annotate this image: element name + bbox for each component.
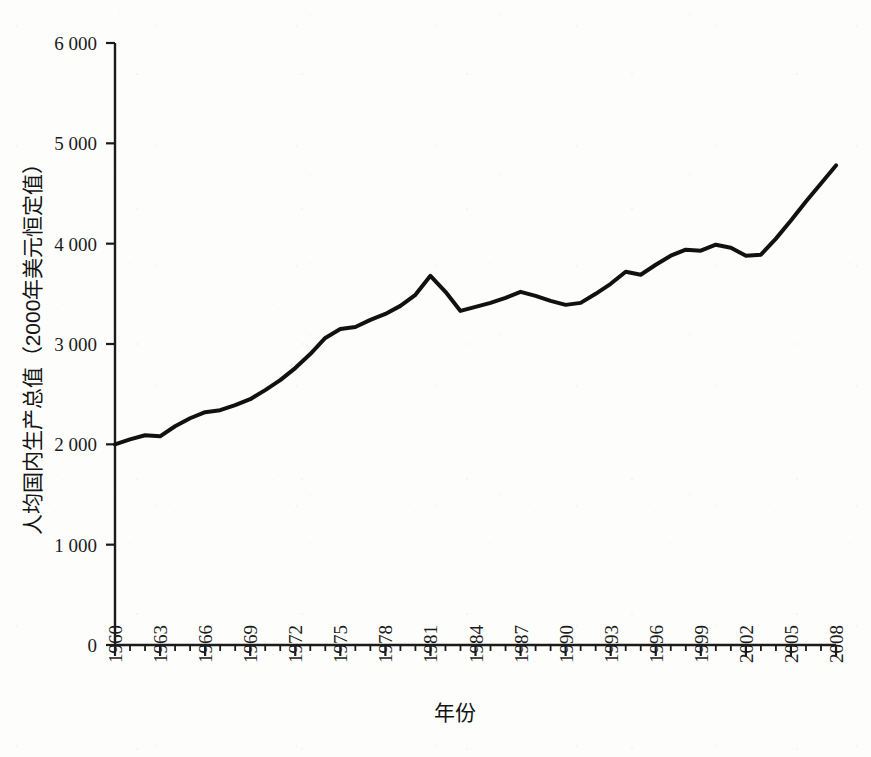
x-tick-label: 2008	[826, 625, 847, 663]
y-tick-label: 4 000	[54, 234, 97, 255]
x-tick-label: 1978	[375, 625, 396, 663]
x-tick-label: 1975	[330, 625, 351, 663]
x-tick-label: 1960	[105, 625, 126, 663]
x-tick-label: 1999	[691, 625, 712, 663]
y-tick-label: 3 000	[54, 334, 97, 355]
y-tick-label: 2 000	[54, 434, 97, 455]
x-axis-title: 年份	[434, 701, 476, 724]
gdp-per-capita-line-chart: 01 0002 0003 0004 0005 0006 000 19601963…	[0, 0, 871, 757]
y-tick-label: 5 000	[54, 133, 97, 154]
x-tick-label: 1996	[646, 625, 667, 663]
x-tick-label: 1969	[240, 625, 261, 663]
y-tick-label: 0	[88, 635, 98, 656]
chart-page: 01 0002 0003 0004 0005 0006 000 19601963…	[0, 0, 871, 757]
data-series-line	[115, 165, 836, 444]
y-tick-label: 1 000	[54, 535, 97, 556]
x-tick-label: 1987	[511, 625, 532, 663]
y-axis-title: 人均国内生产总值（2000年美元恒定值）	[21, 153, 44, 536]
x-tick-label: 1963	[150, 625, 171, 663]
x-tick-label: 1990	[556, 625, 577, 663]
x-tick-label: 1972	[285, 625, 306, 663]
x-tick-label: 1966	[195, 625, 216, 663]
x-tick-label: 2005	[781, 625, 802, 663]
y-tick-label: 6 000	[54, 33, 97, 54]
axes-group	[115, 43, 836, 645]
y-axis-ticks: 01 0002 0003 0004 0005 0006 000	[54, 33, 115, 656]
x-tick-label: 1984	[466, 625, 487, 664]
x-axis-ticks: 1960196319661969197219751978198119841987…	[105, 625, 847, 664]
x-tick-label: 2002	[736, 625, 757, 663]
x-tick-label: 1981	[420, 625, 441, 663]
x-tick-label: 1993	[601, 625, 622, 663]
